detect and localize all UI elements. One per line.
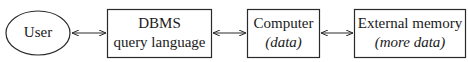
computer-label-line2: (data) bbox=[247, 33, 320, 52]
external-memory-label-line1: External memory bbox=[354, 14, 466, 33]
dbms-label-line1: DBMS bbox=[107, 14, 212, 33]
external-memory-label-line2: (more data) bbox=[354, 33, 466, 52]
computer-label: Computer (data) bbox=[247, 14, 320, 52]
dbms-label: DBMS query language bbox=[107, 14, 212, 52]
computer-label-line1: Computer bbox=[247, 14, 320, 33]
dbms-label-line2: query language bbox=[107, 33, 212, 52]
user-label: User bbox=[6, 23, 70, 42]
user-label-text: User bbox=[24, 24, 52, 40]
external-memory-label: External memory (more data) bbox=[354, 14, 466, 52]
